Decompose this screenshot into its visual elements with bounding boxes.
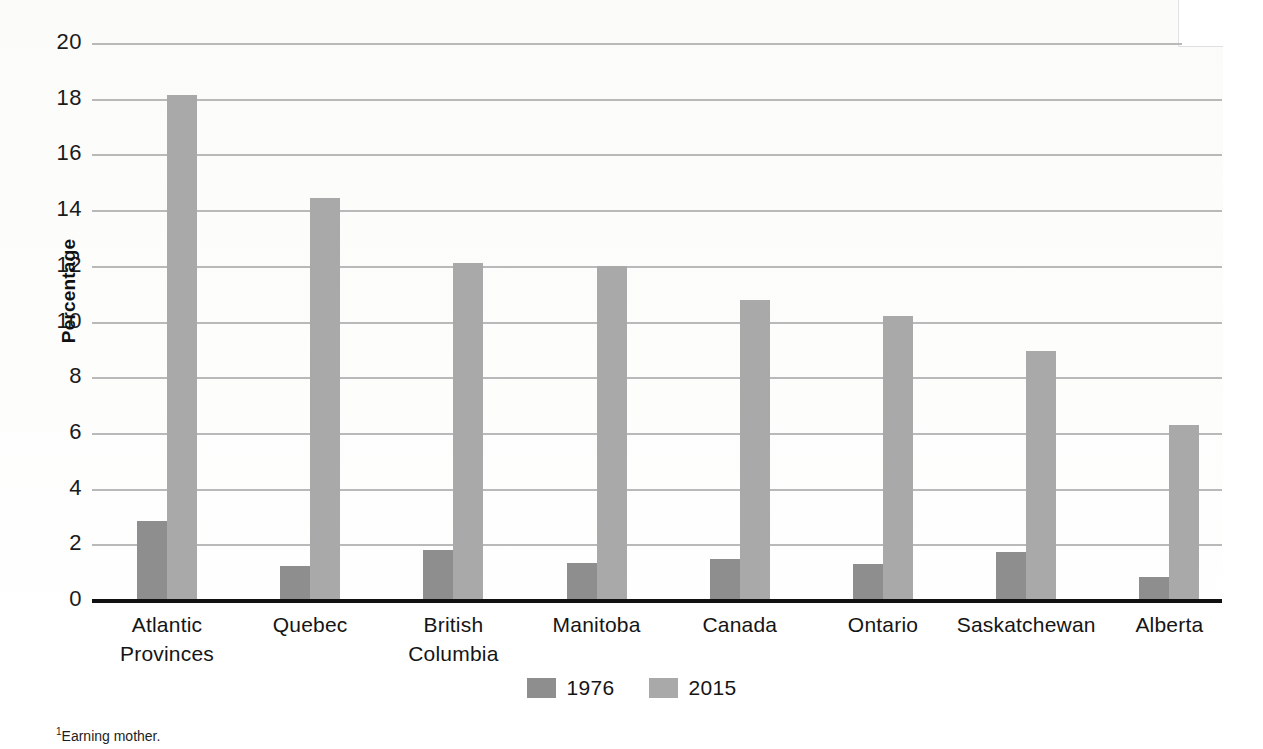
x-axis-category-label: AtlanticProvinces [87, 610, 247, 668]
y-axis-tick-8: 8 [38, 363, 82, 389]
bar-2015-quebec[interactable] [310, 198, 340, 599]
footnote: 1Earning mother. [56, 726, 160, 744]
category-label-line1: Quebec [230, 610, 390, 639]
legend-swatch-1976 [527, 678, 556, 698]
x-axis-category-label: BritishColumbia [373, 610, 533, 668]
bar-2015-ontario[interactable] [883, 316, 913, 599]
legend-label-1976: 1976 [567, 676, 615, 700]
x-axis-baseline [92, 599, 1222, 603]
x-axis-category-label: Alberta [1089, 610, 1249, 639]
x-axis-category-label: Saskatchewan [946, 610, 1106, 639]
x-axis-category-label: Ontario [803, 610, 963, 639]
bar-1976-saskatchewan[interactable] [996, 552, 1026, 599]
y-axis-tick-4: 4 [38, 475, 82, 501]
category-label-line1: British [373, 610, 533, 639]
y-axis-tick-18: 18 [38, 85, 82, 111]
x-axis-category-label: Canada [660, 610, 820, 639]
x-axis-category-label: Quebec [230, 610, 390, 639]
y-axis-tick-14: 14 [38, 196, 82, 222]
y-axis-tick-6: 6 [38, 419, 82, 445]
legend-label-2015: 2015 [689, 676, 737, 700]
category-label-line1: Ontario [803, 610, 963, 639]
legend-entry-2015[interactable]: 2015 [649, 676, 737, 700]
x-axis-category-label: Manitoba [517, 610, 677, 639]
plot-area: 20181614121086420AtlanticProvincesQuebec… [0, 0, 1263, 749]
category-label-line1: Manitoba [517, 610, 677, 639]
bar-2015-british[interactable] [453, 263, 483, 599]
bar-1976-atlantic[interactable] [137, 521, 167, 599]
category-label-line2: Columbia [373, 639, 533, 668]
bar-1976-manitoba[interactable] [567, 563, 597, 599]
gridline-14 [92, 210, 1222, 212]
gridline-16 [92, 154, 1222, 156]
category-label-line1: Saskatchewan [946, 610, 1106, 639]
bar-2015-alberta[interactable] [1169, 425, 1199, 599]
y-axis-tick-0: 0 [38, 586, 82, 612]
category-label-line1: Alberta [1089, 610, 1249, 639]
bar-2015-atlantic[interactable] [167, 95, 197, 599]
gridline-18 [92, 99, 1222, 101]
bar-2015-saskatchewan[interactable] [1026, 351, 1056, 599]
bar-1976-ontario[interactable] [853, 564, 883, 599]
y-axis-tick-2: 2 [38, 530, 82, 556]
footnote-text: Earning mother. [62, 728, 161, 744]
category-label-line2: Provinces [87, 639, 247, 668]
legend-entry-1976[interactable]: 1976 [527, 676, 615, 700]
bar-1976-quebec[interactable] [280, 566, 310, 599]
category-label-line1: Atlantic [87, 610, 247, 639]
chart-page: 20181614121086420AtlanticProvincesQuebec… [0, 0, 1263, 749]
bar-1976-british[interactable] [423, 550, 453, 599]
bar-2015-manitoba[interactable] [597, 266, 627, 599]
gridline-12 [92, 266, 1222, 268]
y-axis-tick-20: 20 [38, 29, 82, 55]
y-axis-tick-16: 16 [38, 140, 82, 166]
bar-2015-canada[interactable] [740, 300, 770, 599]
bar-1976-canada[interactable] [710, 559, 740, 599]
y-axis-title: Percentage [58, 226, 80, 356]
legend-swatch-2015 [649, 678, 678, 698]
category-label-line1: Canada [660, 610, 820, 639]
chart-legend: 19762015 [0, 676, 1263, 700]
bar-1976-alberta[interactable] [1139, 577, 1169, 599]
gridline-10 [92, 322, 1222, 324]
gridline-20 [92, 43, 1182, 45]
